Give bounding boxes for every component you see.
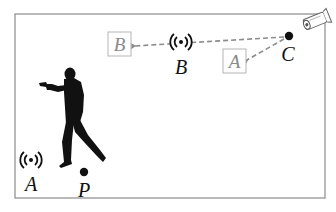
reflected-box-a-label: A (227, 51, 241, 72)
diagram-canvas: B A B C (0, 0, 336, 212)
point-p-label: P (77, 179, 90, 201)
antenna-b-label: B (175, 56, 187, 78)
point-c-dot (285, 32, 293, 40)
reflected-box-b-label: B (114, 34, 126, 55)
reflected-box-b: B (108, 32, 131, 56)
point-c-label: C (281, 43, 295, 65)
wifi-broadcast-icon (170, 33, 191, 51)
point-p-dot (80, 168, 88, 176)
reflected-box-a: A (223, 49, 246, 73)
antenna-a-label: A (23, 173, 38, 195)
